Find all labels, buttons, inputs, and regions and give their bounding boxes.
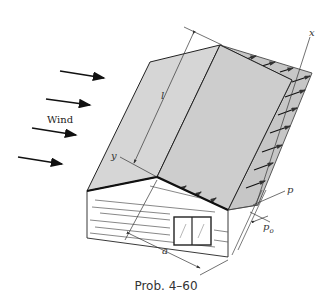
wind-label: Wind <box>47 114 74 125</box>
house-diagram: Wind <box>0 0 332 307</box>
pressure-label: p <box>287 184 294 195</box>
y-axis-label: y <box>110 150 117 161</box>
x-axis-label: x <box>309 27 315 38</box>
window <box>174 217 211 245</box>
wind-arrow-icon <box>18 157 62 164</box>
width-label: a <box>162 245 168 256</box>
wind-arrow-icon <box>32 128 76 135</box>
wind-arrow-icon <box>60 71 104 78</box>
figure-caption: Prob. 4–60 <box>0 279 332 293</box>
wind-arrow-icon <box>46 99 90 105</box>
pressure-base-label: po <box>263 221 274 235</box>
length-label: l <box>161 90 164 101</box>
